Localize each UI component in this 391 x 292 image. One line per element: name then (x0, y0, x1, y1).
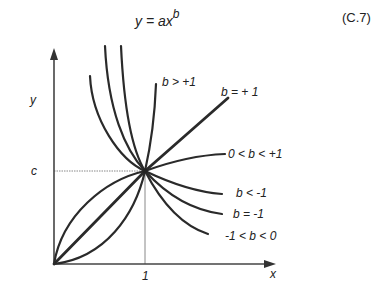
label-b-eq-minus1: b = -1 (233, 207, 264, 221)
label-b-lt-minus1: b < -1 (236, 186, 267, 200)
y-axis-label: y (29, 93, 37, 107)
intersection-point (143, 169, 148, 174)
curve-b-eq-plus1 (54, 98, 228, 264)
label-b-between-minus1-0: -1 < b < 0 (225, 229, 277, 243)
y-tick-c: c (31, 164, 37, 178)
label-b-eq-plus1: b = + 1 (221, 85, 258, 99)
power-function-diagram: y x 1 c b > +1 b = + 1 0 < b < +1 b < -1… (0, 0, 391, 292)
x-tick-1: 1 (142, 269, 149, 283)
y-axis-arrow-icon (50, 48, 58, 60)
x-axis-label: x (269, 267, 277, 281)
label-b-gt-plus1: b > +1 (162, 75, 196, 89)
label-b-between-0-1: 0 < b < +1 (228, 147, 282, 161)
